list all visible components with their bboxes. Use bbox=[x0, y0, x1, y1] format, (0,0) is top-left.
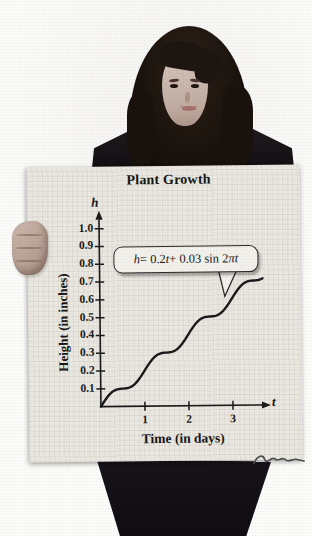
finger-crease bbox=[16, 234, 42, 236]
woman-eye-left bbox=[170, 84, 178, 88]
woman-hair-strand-left bbox=[127, 92, 154, 170]
photo-of-woman-holding-chart: Plant Growth h t Height (in inches) Time… bbox=[0, 0, 312, 536]
finger-crease bbox=[16, 247, 42, 249]
equation-t2: t bbox=[235, 251, 239, 266]
axis-line bbox=[99, 220, 101, 407]
woman-torso-below-poster bbox=[95, 459, 273, 536]
growth-curve bbox=[100, 278, 264, 406]
equation-eq: = 0.2 bbox=[140, 252, 166, 267]
x-axis-arrowhead bbox=[262, 401, 271, 408]
woman-hand bbox=[12, 221, 48, 275]
woman-hair-strand-right bbox=[222, 86, 253, 170]
plot-area bbox=[26, 165, 302, 463]
axis-line bbox=[101, 405, 263, 407]
equation-callout: h = 0.2t + 0.03 sin 2πt bbox=[113, 245, 258, 274]
woman-lips bbox=[182, 106, 196, 111]
equation-mid: + 0.03 sin 2 bbox=[169, 251, 228, 267]
signature-scribble bbox=[250, 448, 308, 472]
finger-crease bbox=[16, 260, 42, 262]
y-axis-arrowhead bbox=[95, 211, 102, 220]
woman-eye-right bbox=[191, 84, 199, 88]
poster-board: Plant Growth h t Height (in inches) Time… bbox=[26, 165, 302, 463]
